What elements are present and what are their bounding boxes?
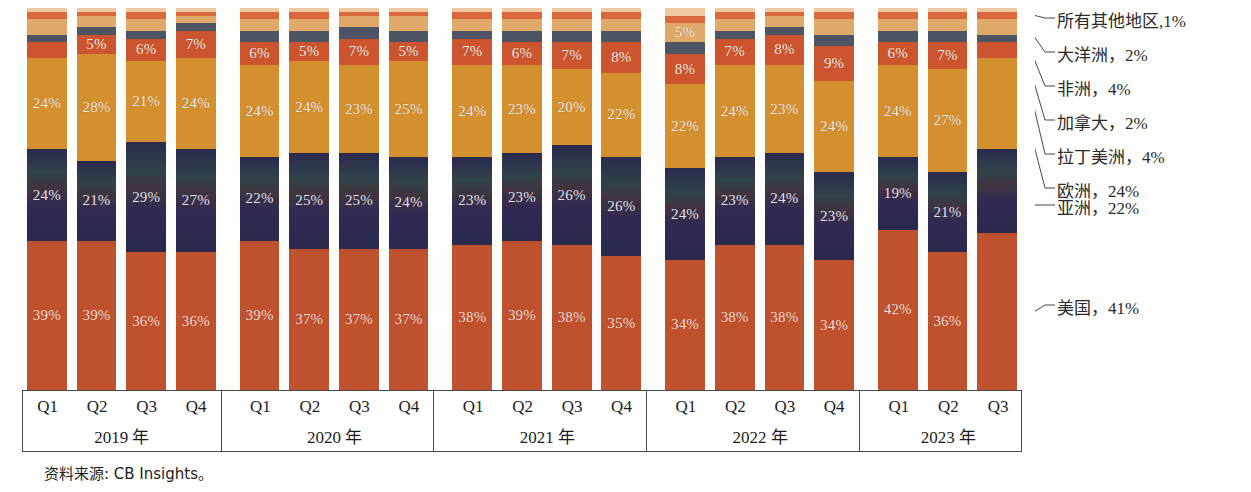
- legend-label-latin-america[interactable]: 拉丁美洲，4%: [1057, 143, 1165, 168]
- segment-value-label: 22%: [607, 107, 635, 122]
- segment-value-label: 24%: [395, 195, 423, 210]
- segment-value-label: 23%: [770, 102, 798, 117]
- segment-value-label: 24%: [671, 207, 699, 222]
- segment-value-label: 21%: [132, 94, 160, 109]
- quarter-label-row: Q1Q2Q3Q4: [448, 393, 646, 421]
- stacked-bar[interactable]: 7%27%21%36%: [928, 8, 968, 390]
- bar-segment-canada: [765, 27, 805, 35]
- bar-segment-canada: [814, 35, 854, 46]
- bar-segment-oceania: [240, 12, 280, 20]
- quarter-label-q3[interactable]: Q3: [335, 397, 384, 417]
- stacked-bar[interactable]: 7%24%27%36%: [176, 8, 216, 390]
- year-label: 2020 年: [236, 420, 434, 450]
- bar-segment-us: 42%: [878, 230, 918, 390]
- stacked-bar[interactable]: 24%24%39%: [27, 8, 67, 390]
- stacked-bar[interactable]: 9%24%23%34%: [814, 8, 854, 390]
- axis-group-2019: Q1Q2Q3Q42019 年: [23, 391, 222, 451]
- stacked-bar[interactable]: 5%28%21%39%: [77, 8, 117, 390]
- quarter-label-q4[interactable]: Q4: [597, 397, 646, 417]
- bar-segment-canada: [339, 27, 379, 38]
- bar-segment-europe: 23%: [502, 65, 542, 153]
- bar-segment-asia: 23%: [814, 172, 854, 260]
- bar-segment-africa: [176, 16, 216, 24]
- stacked-bar[interactable]: 7%20%26%38%: [552, 8, 592, 390]
- quarter-label-q2[interactable]: Q2: [924, 397, 974, 417]
- bar-segment-latin-america: 7%: [552, 42, 592, 69]
- segment-value-label: 37%: [295, 312, 323, 327]
- bar-segment-us: 39%: [27, 241, 67, 390]
- stacked-bar[interactable]: 6%24%19%42%: [878, 8, 918, 390]
- stacked-bar[interactable]: 6%23%23%39%: [502, 8, 542, 390]
- bar-segment-africa: [977, 19, 1017, 34]
- segment-value-label: 35%: [607, 316, 635, 331]
- segment-value-label: 24%: [246, 104, 274, 119]
- axis-group-2021: Q1Q2Q3Q42021 年: [448, 391, 647, 451]
- bar-segment-us: 38%: [552, 245, 592, 390]
- bar-segment-us: 36%: [928, 252, 968, 390]
- bar-segment-us: 34%: [665, 260, 705, 390]
- bar-segment-us: 38%: [452, 245, 492, 390]
- quarter-label-q3[interactable]: Q3: [760, 397, 809, 417]
- segment-value-label: 8%: [675, 62, 695, 77]
- quarter-label-q2[interactable]: Q2: [711, 397, 760, 417]
- stacked-bar[interactable]: [977, 8, 1017, 390]
- bar-segment-us: 39%: [502, 241, 542, 390]
- quarter-label-q4[interactable]: Q4: [384, 397, 433, 417]
- stacked-bar[interactable]: 7%24%23%38%: [715, 8, 755, 390]
- quarter-label-q3[interactable]: Q3: [122, 397, 171, 417]
- axis-group-2023: Q1Q2Q32023 年: [874, 391, 1023, 451]
- segment-value-label: 7%: [349, 44, 369, 59]
- year-label: 2022 年: [661, 420, 859, 450]
- bar-segment-latin-america: 7%: [452, 39, 492, 66]
- bar-segment-asia: 26%: [552, 145, 592, 244]
- bar-segment-oceania: [289, 12, 329, 20]
- stacked-bar[interactable]: 5%24%25%37%: [289, 8, 329, 390]
- bar-segment-africa: [389, 16, 429, 31]
- bar-segment-africa: [502, 19, 542, 30]
- bar-segment-asia: 27%: [176, 149, 216, 252]
- stacked-bar[interactable]: 5%8%22%24%34%: [665, 8, 705, 390]
- segment-value-label: 42%: [884, 302, 912, 317]
- legend-label-all-other[interactable]: 所有其他地区,1%: [1057, 7, 1186, 32]
- quarter-label-q1[interactable]: Q1: [661, 397, 710, 417]
- stacked-bar[interactable]: 8%22%26%35%: [601, 8, 641, 390]
- stacked-bar[interactable]: 7%23%25%37%: [339, 8, 379, 390]
- bar-segment-africa: [814, 19, 854, 34]
- bar-segment-canada: [27, 35, 67, 43]
- stacked-bar[interactable]: 6%24%22%39%: [240, 8, 280, 390]
- stacked-bar[interactable]: 7%24%23%38%: [452, 8, 492, 390]
- stacked-bar[interactable]: 8%23%24%38%: [765, 8, 805, 390]
- legend-label-asia[interactable]: 亚洲，22%: [1057, 194, 1139, 219]
- bar-segment-africa: [765, 16, 805, 27]
- bar-segment-africa: [126, 19, 166, 30]
- quarter-label-q1[interactable]: Q1: [448, 397, 497, 417]
- quarter-label-q3[interactable]: Q3: [973, 397, 1023, 417]
- bar-segment-europe: 23%: [765, 65, 805, 153]
- bar-segment-africa: 5%: [665, 23, 705, 42]
- quarter-label-q2[interactable]: Q2: [285, 397, 334, 417]
- bar-segment-africa: [715, 19, 755, 30]
- legend-label-africa[interactable]: 非洲，4%: [1057, 75, 1131, 100]
- bar-segment-canada: [878, 31, 918, 42]
- stacked-bar[interactable]: 5%25%24%37%: [389, 8, 429, 390]
- quarter-label-q4[interactable]: Q4: [810, 397, 859, 417]
- bar-segment-us: 38%: [715, 245, 755, 390]
- quarter-label-q4[interactable]: Q4: [171, 397, 220, 417]
- quarter-label-q1[interactable]: Q1: [236, 397, 285, 417]
- bar-segment-asia: 24%: [665, 168, 705, 260]
- bar-segment-asia: 23%: [502, 153, 542, 241]
- legend-label-canada[interactable]: 加拿大，2%: [1057, 109, 1148, 134]
- quarter-label-q1[interactable]: Q1: [23, 397, 72, 417]
- stacked-bar[interactable]: 6%21%29%36%: [126, 8, 166, 390]
- bar-segment-asia: 24%: [27, 149, 67, 241]
- legend-label-oceania[interactable]: 大洋洲，2%: [1057, 41, 1148, 66]
- segment-value-label: 36%: [132, 314, 160, 329]
- quarter-label-row: Q1Q2Q3Q4: [661, 393, 859, 421]
- quarter-label-q2[interactable]: Q2: [72, 397, 121, 417]
- quarter-label-q1[interactable]: Q1: [874, 397, 924, 417]
- year-label: 2021 年: [448, 420, 646, 450]
- bar-segment-latin-america: 7%: [715, 39, 755, 66]
- quarter-label-q3[interactable]: Q3: [547, 397, 596, 417]
- quarter-label-q2[interactable]: Q2: [498, 397, 547, 417]
- legend-label-us[interactable]: 美国，41%: [1057, 294, 1139, 319]
